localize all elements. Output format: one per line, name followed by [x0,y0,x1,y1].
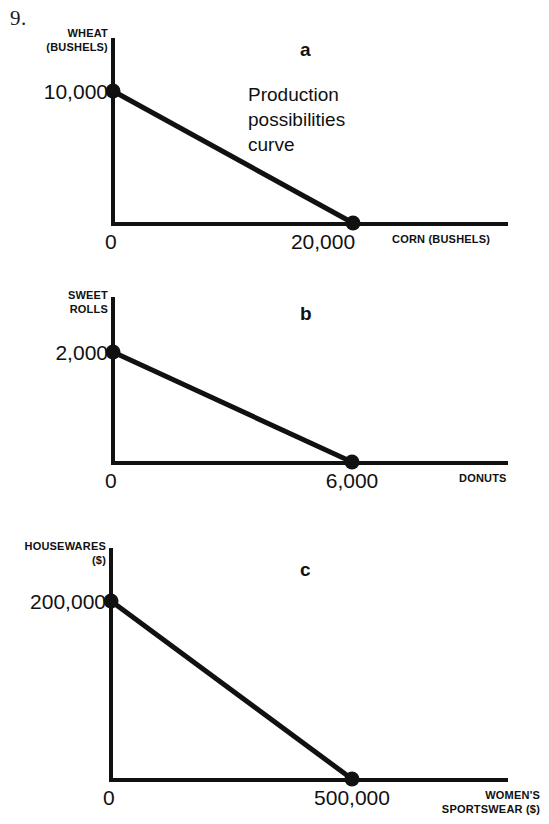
panel-letter-a: a [300,40,311,59]
marker-x-intercept-b [345,455,360,470]
x-intercept-label-b: 6,000 [297,470,407,491]
y-axis-label-b-line1: SWEET [0,288,108,302]
chart-panel-c: HOUSEWARES ($) 200,000 0 500,000 WOMEN'S… [0,520,549,824]
origin-label-c: 0 [103,787,115,808]
x-axis-label-b: DONUTS [459,471,549,485]
x-axis-label-b-line1: DONUTS [459,471,549,485]
chart-panel-a: WHEAT (BUSHELS) 10,000 0 20,000 CORN (BU… [0,0,549,275]
ppc-curve-b [113,352,352,462]
y-axis-label-a: WHEAT (BUSHELS) [0,26,108,54]
y-axis-label-a-line2: (BUSHELS) [0,40,108,54]
y-axis-label-c: HOUSEWARES ($) [0,539,106,567]
x-intercept-label-a: 20,000 [268,231,378,252]
y-axis-label-b: SWEET ROLLS [0,288,108,316]
y-intercept-label-b: 2,000 [0,342,108,363]
y-intercept-label-a: 10,000 [0,81,108,102]
x-axis-label-c-line1: WOMEN'S [388,788,540,802]
origin-label-b: 0 [105,470,117,491]
x-axis-label-c: WOMEN'S SPORTSWEAR ($) [388,788,540,816]
ppc-curve-c [111,601,352,779]
origin-label-a: 0 [105,231,117,252]
worksheet-page: 9. WHEAT (BUSHELS) 10,000 0 20,000 CORN … [0,0,549,824]
y-axis-label-c-line2: ($) [0,553,106,567]
marker-x-intercept-a [346,216,361,231]
panel-letter-c: c [300,560,311,579]
panel-letter-b: b [300,304,312,323]
y-axis-label-a-line1: WHEAT [0,26,108,40]
marker-x-intercept-c [345,772,360,787]
y-axis-label-c-line1: HOUSEWARES [0,539,106,553]
ppc-annotation: Production possibilities curve [248,82,345,157]
y-intercept-label-c: 200,000 [0,591,106,612]
x-axis-label-c-line2: SPORTSWEAR ($) [388,802,540,816]
x-axis-label-a-line1: CORN (BUSHELS) [392,232,549,246]
x-axis-label-a: CORN (BUSHELS) [392,232,549,246]
chart-panel-b: SWEET ROLLS 2,000 0 6,000 DONUTS b [0,275,549,520]
y-axis-label-b-line2: ROLLS [0,302,108,316]
